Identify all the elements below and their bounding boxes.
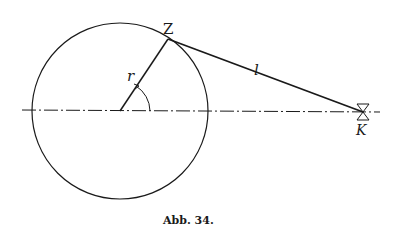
connecting-rod-line (168, 39, 363, 112)
figure-caption: Abb. 34. (162, 214, 214, 227)
crank-mechanism-diagram: Z r l K Abb. 34. (0, 0, 393, 237)
label-r: r (127, 67, 135, 85)
label-l: l (254, 61, 259, 79)
label-z: Z (163, 20, 173, 38)
angle-arc (136, 86, 150, 111)
center-axis-line (22, 110, 380, 112)
label-k: K (355, 122, 368, 138)
